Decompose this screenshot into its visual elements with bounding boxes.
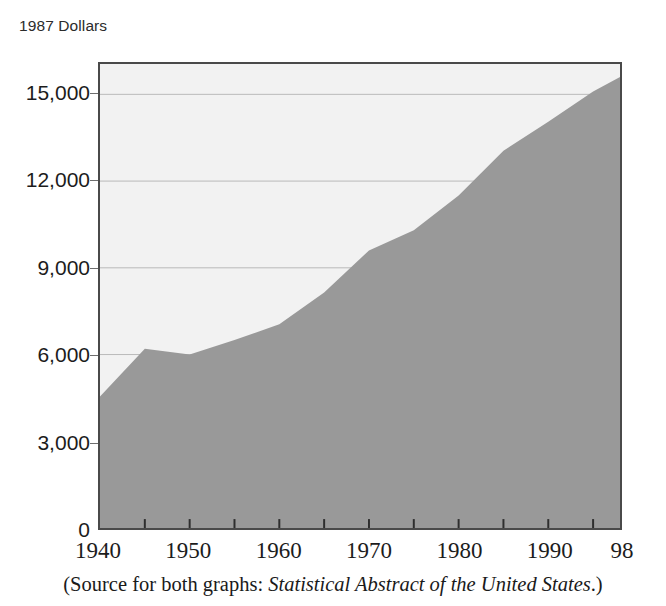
y-tick-label: 15,000 — [4, 81, 90, 105]
y-tick-mark — [90, 180, 98, 181]
chart-figure: 1987 Dollars 03,0006,0009,00012,00015,00… — [0, 0, 666, 606]
y-tick-label: 6,000 — [4, 343, 90, 367]
x-tick-label: 1970 — [346, 538, 392, 564]
y-tick-mark — [90, 268, 98, 269]
x-tick-label: 1950 — [165, 538, 211, 564]
area-series-fill — [100, 77, 620, 528]
x-tick-label: 1990 — [527, 538, 573, 564]
x-tick-label: 1980 — [436, 538, 482, 564]
y-tick-mark — [90, 355, 98, 356]
y-axis-tick-labels: 03,0006,0009,00012,00015,000 — [0, 0, 90, 606]
y-tick-label: 9,000 — [4, 256, 90, 280]
y-tick-label: 12,000 — [4, 168, 90, 192]
x-tick-label: 1960 — [256, 538, 302, 564]
plot-area — [98, 62, 622, 530]
area-chart-svg — [100, 64, 620, 528]
source-caption-prefix: (Source for both graphs: — [63, 573, 268, 595]
y-tick-label: 3,000 — [4, 431, 90, 455]
x-tick-label: 1940 — [75, 538, 121, 564]
y-tick-mark — [90, 443, 98, 444]
x-axis-tick-labels: 19401950196019701980199098 — [0, 538, 666, 570]
y-tick-mark — [90, 93, 98, 94]
source-caption: (Source for both graphs: Statistical Abs… — [0, 573, 666, 596]
x-tick-label: 98 — [611, 538, 634, 564]
source-caption-title: Statistical Abstract of the United State… — [268, 573, 590, 595]
source-caption-suffix: .) — [591, 573, 603, 595]
